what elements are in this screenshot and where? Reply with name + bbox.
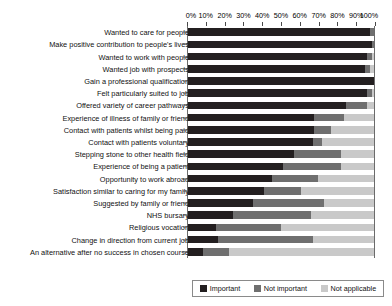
y-axis-tick-mark [183,68,187,69]
legend-label-not-important: Not important [264,285,307,293]
bar-row: Suggested by family or friend [0,197,392,209]
stacked-bar-chart: 0%10%20%30%40%50%60%70%80%90%100% Wanted… [0,0,392,306]
bar-segment-not-important [218,236,313,244]
bar-row: Wanted to work with people [0,50,392,62]
x-axis-tick-label: 0% [186,11,196,20]
bar-row: Satisfaction similar to caring for my fa… [0,185,392,197]
category-label: Gain a professional qualification [84,76,189,85]
stacked-bar [188,163,374,171]
bar-segment-important [188,41,372,49]
legend-swatch-not-applicable-icon [321,285,328,292]
stacked-bar [188,236,374,244]
category-label: Suggested by family or friend [93,199,189,208]
bar-row: Felt particularly suited to job [0,87,392,99]
bar-segment-not-important [313,138,322,146]
legend-label-important: Important [210,285,240,293]
bar-segment-not-important [283,163,341,171]
bar-segment-important [188,65,365,73]
bar-segment-not-important [233,211,311,219]
stacked-bar [188,102,374,110]
bar-segment-important [188,77,374,85]
category-label: Contact with patients whilst being paid [64,125,189,134]
bar-row: Offered variety of career pathways [0,99,392,111]
y-axis-tick-mark [183,117,187,118]
bar-segment-important [188,53,367,61]
x-axis-tick-label: 60% [293,11,307,20]
bar-segment-not-applicable [344,114,374,122]
x-axis-tick-label: 70% [311,11,325,20]
stacked-bar [188,150,374,158]
stacked-bar [188,138,374,146]
bar-segment-important [188,199,253,207]
y-axis-tick-mark [183,141,187,142]
bar-row: Opportunity to work abroad [0,173,392,185]
stacked-bar [188,53,374,61]
legend-item-important: Important [200,285,240,293]
y-axis-tick-mark [183,32,187,33]
bar-segment-not-important [372,41,374,49]
bar-segment-not-applicable [370,65,374,73]
y-axis-tick-mark [183,203,187,204]
y-axis-tick-mark [183,105,187,106]
bar-segment-not-important [253,199,324,207]
bar-segment-important [188,175,272,183]
legend-swatch-important-icon [200,285,207,292]
bar-segment-not-applicable [372,89,374,97]
bar-segment-not-important [264,187,301,195]
y-axis-tick-mark [183,56,187,57]
y-axis-tick-mark [183,239,187,240]
bar-segment-important [188,211,233,219]
y-axis-tick-mark [183,44,187,45]
category-label: Wanted to care for people [104,28,189,37]
bar-segment-not-applicable [281,224,374,232]
category-label: An alternative after no success in chose… [30,247,189,256]
bar-segment-not-applicable [341,163,374,171]
category-label: Experience of illness of family or frien… [62,113,189,122]
y-axis-tick-mark [183,154,187,155]
bar-row: An alternative after no success in chose… [0,246,392,258]
bar-segment-important [188,236,218,244]
legend-item-not-important: Not important [254,285,307,293]
y-axis-tick-mark [183,178,187,179]
bar-segment-not-applicable [301,187,374,195]
bar-row: Religious vocation [0,221,392,233]
stacked-bar [188,41,374,49]
category-label: Make positive contribution to people's l… [49,40,189,49]
bar-segment-important [188,150,294,158]
category-label: Contact with patients voluntary [88,137,189,146]
stacked-bar [188,199,374,207]
bar-segment-not-applicable [229,248,374,256]
stacked-bar [188,224,374,232]
x-axis-tick-label: 100% [360,11,378,20]
bar-segment-not-applicable [313,236,374,244]
bar-segment-not-applicable [331,126,374,134]
legend-item-not-applicable: Not applicable [321,285,377,293]
bar-segment-not-applicable [311,211,374,219]
bar-segment-not-important [314,126,331,134]
bar-segment-important [188,89,367,97]
bar-segment-important [188,187,264,195]
x-axis-tick-label: 20% [217,11,231,20]
bar-segment-not-important [216,224,281,232]
bar-segment-not-applicable [318,175,374,183]
bar-segment-important [188,102,346,110]
bar-segment-not-important [314,114,344,122]
category-label: Change in direction from current job [72,235,190,244]
stacked-bar [188,77,374,85]
y-axis-tick-mark [183,93,187,94]
bar-segment-not-applicable [324,199,374,207]
bar-row: Experience of illness of family or frien… [0,111,392,123]
category-label: Wanted to work with people [98,52,189,61]
stacked-bar [188,211,374,219]
y-axis-tick-mark [183,251,187,252]
bar-segment-important [188,138,313,146]
bar-segment-not-important [370,28,374,36]
bar-row: Stepping stone to other health field [0,148,392,160]
stacked-bar [188,175,374,183]
bar-row: Gain a professional qualification [0,75,392,87]
stacked-bar [188,28,374,36]
bar-row: Wanted job with prospects [0,63,392,75]
category-label: Wanted job with prospects [103,64,189,73]
category-label: Felt particularly suited to job [97,89,189,98]
category-label: Experience of being a patient [93,162,189,171]
